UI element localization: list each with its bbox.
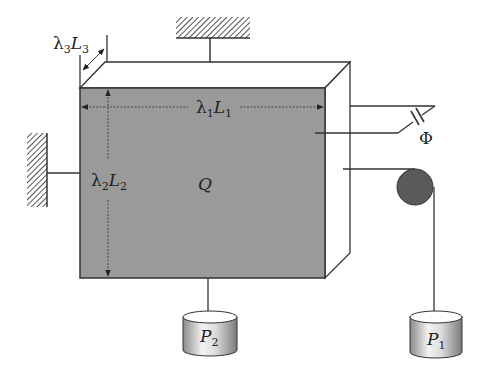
weight-p2: P2 (183, 278, 237, 356)
left-fixed-support (27, 133, 80, 207)
body-label: Q (198, 174, 212, 194)
body-box (80, 62, 350, 278)
pulley-wheel (397, 169, 433, 205)
weight-p1: P1 (410, 311, 462, 358)
pulley-system (343, 169, 434, 313)
physical-system-diagram: λ3L3 λ1L1 λ2L2 Q Φ P (0, 0, 485, 379)
potential-label: Φ (419, 128, 433, 148)
length3-label: λ3L3 (53, 33, 89, 56)
